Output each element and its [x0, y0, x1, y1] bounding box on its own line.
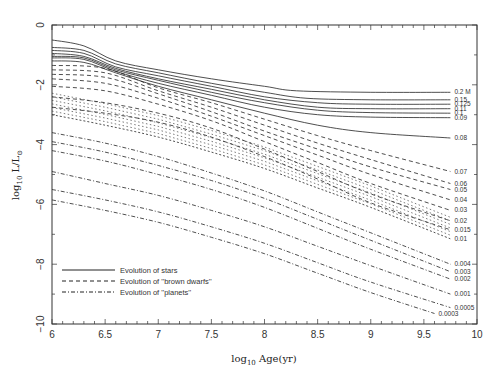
curve-label: 0.01 [454, 235, 467, 242]
legend-label-planets: Evolution of ''planets'' [120, 288, 192, 297]
curve-bd-0p05 [52, 74, 450, 189]
curve-label: 0.03 [454, 206, 467, 213]
y-tick-label: −10 [35, 315, 46, 332]
curve-label: 0.07 [454, 168, 467, 175]
curve-bd-0p07 [52, 65, 450, 171]
curve-star-0p125 [52, 50, 450, 104]
curve-label: 0.015 [454, 226, 471, 233]
curve-dense-0p01 [52, 115, 450, 239]
x-axis-title: log10 Age(yr) [231, 353, 297, 367]
curve-planet-0p0005 [52, 190, 450, 308]
x-tick-label: 9 [368, 329, 374, 340]
y-tick-label: −8 [35, 258, 46, 270]
curve-label: 0.001 [454, 290, 471, 297]
curve-labels-layer: 0.2 M0.150.1250.110.10.090.080.070.060.0… [439, 88, 475, 316]
curve-label: 0.003 [454, 268, 471, 275]
curve-planet-0p003 [52, 142, 450, 272]
curve-label: 0.0003 [439, 310, 459, 317]
curve-dense-track [52, 111, 450, 235]
legend: Evolution of stars Evolution of ''brown … [62, 266, 212, 297]
y-tick-label: 0 [35, 22, 46, 28]
curve-planet-0p001 [52, 172, 450, 295]
x-tick-label: 7 [155, 329, 161, 340]
legend-label-brown-dwarfs: Evolution of ''brown dwarfs'' [120, 277, 212, 286]
y-tick-label: −2 [35, 79, 46, 91]
curve-dense-track [52, 108, 450, 232]
curve-label: 0.04 [454, 196, 467, 203]
curve-label: 0.002 [454, 275, 471, 282]
curve-planet-0p0003 [52, 200, 435, 314]
curve-planet-0p004 [52, 133, 450, 265]
x-tick-label: 7.5 [204, 329, 218, 340]
y-tick-label: −4 [35, 138, 46, 150]
axis-tick-labels: 66.577.588.599.5100−2−4−6−8−10 [35, 22, 483, 340]
curve-label: 0.05 [454, 186, 467, 193]
luminosity-evolution-chart: 0.2 M0.150.1250.110.10.090.080.070.060.0… [0, 0, 504, 375]
x-tick-label: 6 [49, 329, 55, 340]
curve-label: 0.08 [454, 134, 467, 141]
y-axis-title: log10 L/L⊙ [10, 150, 24, 200]
curve-label: 0.004 [454, 260, 471, 267]
curve-label: 0.02 [454, 217, 467, 224]
x-tick-label: 10 [471, 329, 483, 340]
x-tick-label: 6.5 [98, 329, 112, 340]
x-tick-label: 8 [262, 329, 268, 340]
curve-label: 0.09 [454, 114, 467, 121]
x-tick-label: 8.5 [311, 329, 325, 340]
curve-dense-track [52, 93, 450, 217]
curve-star-0p2 [52, 40, 450, 92]
legend-label-stars: Evolution of stars [120, 266, 178, 275]
y-tick-label: −6 [35, 198, 46, 210]
x-tick-label: 9.5 [417, 329, 431, 340]
curve-label: 0.2 M [454, 88, 470, 95]
curves-layer [52, 40, 450, 314]
